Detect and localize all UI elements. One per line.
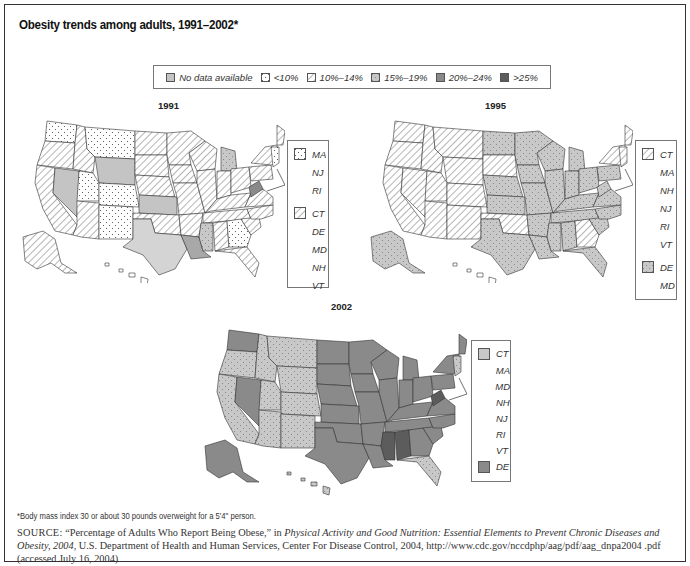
state-label: DE bbox=[496, 461, 509, 472]
inset-row: RI bbox=[472, 426, 510, 442]
mid-gray-swatch-icon bbox=[478, 461, 490, 473]
inset-row: DE bbox=[472, 458, 510, 475]
state-label: VT bbox=[312, 280, 324, 291]
state-label: DE bbox=[660, 262, 673, 273]
legend-item-no-data: No data available bbox=[166, 72, 252, 83]
dots-swatch-icon bbox=[294, 148, 306, 160]
state-label: NJ bbox=[312, 167, 324, 178]
state-label: MA bbox=[312, 149, 326, 160]
inset-row: NH bbox=[288, 258, 328, 276]
hatch-swatch-icon bbox=[642, 148, 654, 160]
state-label: NJ bbox=[496, 413, 508, 424]
legend-item-15-19: 15%–19% bbox=[371, 72, 427, 83]
state-label: MA bbox=[660, 167, 674, 178]
light-gray-swatch-icon bbox=[642, 261, 654, 273]
state-label: NJ bbox=[660, 203, 672, 214]
mid-gray-swatch-icon bbox=[436, 73, 445, 82]
state-label: CT bbox=[312, 208, 325, 219]
inset-row: MD bbox=[472, 378, 510, 394]
inset-legend-1995: CT MA NH NJ RI VT DE MD bbox=[635, 140, 677, 300]
state-label: MA bbox=[496, 365, 510, 376]
state-label: CT bbox=[496, 348, 509, 359]
legend-item-lt10: <10% bbox=[261, 72, 299, 83]
inset-row: DE bbox=[288, 222, 328, 240]
legend-label: >25% bbox=[513, 72, 538, 83]
state-label: RI bbox=[312, 185, 322, 196]
state-label: MD bbox=[495, 381, 510, 392]
state-label: VT bbox=[496, 445, 508, 456]
us-map-1995 bbox=[363, 113, 633, 283]
state-label: RI bbox=[660, 221, 670, 232]
inset-row: MA bbox=[472, 362, 510, 378]
inset-row: NJ bbox=[472, 410, 510, 426]
state-label: NH bbox=[660, 185, 674, 196]
legend-label: 10%–14% bbox=[320, 72, 363, 83]
dark-gray-swatch-icon bbox=[500, 73, 509, 82]
legend-item-10-14: 10%–14% bbox=[307, 72, 363, 83]
inset-row: MD bbox=[288, 240, 328, 258]
legend-label: <10% bbox=[274, 72, 299, 83]
inset-row: VT bbox=[472, 442, 510, 458]
state-label: RI bbox=[496, 429, 506, 440]
source-label: SOURCE: bbox=[17, 527, 63, 538]
inset-row: NJ bbox=[288, 163, 328, 181]
inset-legend-2002: CT MA MD NH NJ RI VT DE bbox=[471, 340, 511, 482]
legend-label: 20%–24% bbox=[449, 72, 492, 83]
inset-row: MD bbox=[636, 276, 676, 294]
inset-row: CT bbox=[636, 145, 676, 163]
us-map-1991 bbox=[15, 113, 285, 283]
state-label: MD bbox=[312, 244, 327, 255]
no-data-swatch-icon bbox=[166, 73, 175, 82]
source-citation: SOURCE: “Percentage of Adults Who Report… bbox=[17, 526, 689, 565]
dots-swatch-icon bbox=[261, 73, 270, 82]
figure-frame: Obesity trends among adults, 1991–2002* … bbox=[4, 4, 686, 562]
inset-row: RI bbox=[636, 217, 676, 235]
inset-row: RI bbox=[288, 181, 328, 199]
inset-row: VT bbox=[636, 235, 676, 253]
state-label: NH bbox=[312, 262, 326, 273]
state-label: DE bbox=[312, 226, 325, 237]
footnote: *Body mass index 30 or about 30 pounds o… bbox=[17, 511, 256, 521]
light-gray-swatch-icon bbox=[478, 348, 490, 360]
legend-item-gt25: >25% bbox=[500, 72, 538, 83]
legend-label: No data available bbox=[179, 72, 252, 83]
figure-title: Obesity trends among adults, 1991–2002* bbox=[19, 17, 238, 32]
state-label: MD bbox=[660, 280, 675, 291]
inset-row: MA bbox=[636, 163, 676, 181]
hatch-swatch-icon bbox=[307, 73, 316, 82]
inset-legend-1991: MA NJ RI CT DE MD NH VT bbox=[287, 140, 329, 288]
inset-row: CT bbox=[472, 345, 510, 362]
light-gray-swatch-icon bbox=[371, 73, 380, 82]
inset-row: NJ bbox=[636, 199, 676, 217]
map-title-1991: 1991 bbox=[158, 100, 179, 111]
map-title-1995: 1995 bbox=[485, 100, 506, 111]
main-legend: No data available <10% 10%–14% 15%–19% 2… bbox=[153, 65, 551, 89]
source-rest: U.S. Department of Health and Human Serv… bbox=[17, 540, 661, 564]
inset-row: CT bbox=[288, 204, 328, 222]
state-label: CT bbox=[660, 149, 673, 160]
inset-row: DE bbox=[636, 258, 676, 276]
inset-row: VT bbox=[288, 276, 328, 294]
inset-row: NH bbox=[472, 394, 510, 410]
legend-label: 15%–19% bbox=[384, 72, 427, 83]
state-label: NH bbox=[496, 397, 510, 408]
hatch-swatch-icon bbox=[294, 207, 306, 219]
us-map-2002 bbox=[197, 309, 467, 505]
source-quote: “Percentage of Adults Who Report Being O… bbox=[65, 527, 284, 538]
legend-item-20-24: 20%–24% bbox=[436, 72, 492, 83]
state-label: VT bbox=[660, 239, 672, 250]
inset-row: MA bbox=[288, 145, 328, 163]
inset-row: NH bbox=[636, 181, 676, 199]
